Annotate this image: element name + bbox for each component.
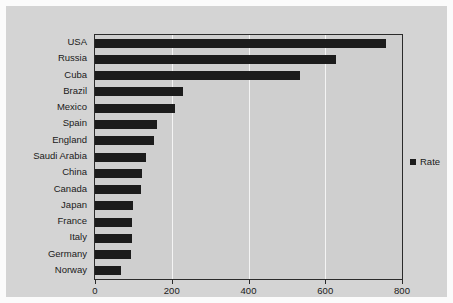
bar bbox=[95, 218, 132, 227]
y-axis-label: China bbox=[62, 167, 87, 177]
y-axis-label: Canada bbox=[54, 184, 87, 194]
x-axis-tick bbox=[95, 280, 96, 284]
legend-label-rate: Rate bbox=[420, 156, 440, 167]
y-axis-label: Germany bbox=[48, 249, 87, 259]
bar-row bbox=[95, 104, 402, 113]
y-axis-label: USA bbox=[67, 37, 87, 47]
y-axis-label: Norway bbox=[55, 265, 87, 275]
bar bbox=[95, 266, 121, 275]
bar bbox=[95, 201, 133, 210]
bar-row bbox=[95, 218, 402, 227]
y-axis-label: Brazil bbox=[63, 86, 87, 96]
bar-row bbox=[95, 55, 402, 64]
y-axis-label: England bbox=[52, 135, 87, 145]
bar bbox=[95, 185, 141, 194]
bar bbox=[95, 55, 336, 64]
x-axis-tick-label: 600 bbox=[317, 285, 333, 296]
bars-layer bbox=[95, 35, 402, 279]
bar-row bbox=[95, 250, 402, 259]
y-axis-label: Mexico bbox=[57, 102, 87, 112]
bar-row bbox=[95, 201, 402, 210]
bar-row bbox=[95, 153, 402, 162]
y-axis-label: Saudi Arabia bbox=[33, 151, 87, 161]
bar-row bbox=[95, 39, 402, 48]
y-axis-category-labels: USARussiaCubaBrazilMexicoSpainEnglandSau… bbox=[6, 34, 91, 280]
x-axis-tick-label: 200 bbox=[164, 285, 180, 296]
bar-row bbox=[95, 234, 402, 243]
bar bbox=[95, 234, 132, 243]
bar bbox=[95, 39, 386, 48]
plot-area bbox=[94, 34, 403, 280]
bar bbox=[95, 71, 300, 80]
bar bbox=[95, 120, 157, 129]
bar-row bbox=[95, 266, 402, 275]
bar-chart-figure: USARussiaCubaBrazilMexicoSpainEnglandSau… bbox=[0, 0, 453, 303]
y-axis-label: Italy bbox=[70, 232, 87, 242]
y-axis-label: Spain bbox=[63, 118, 87, 128]
bar bbox=[95, 153, 146, 162]
x-axis-tick bbox=[172, 280, 173, 284]
legend-swatch-rate bbox=[410, 159, 416, 165]
y-axis-label: Japan bbox=[61, 200, 87, 210]
y-axis-label: Russia bbox=[58, 53, 87, 63]
y-axis-label: Cuba bbox=[64, 70, 87, 80]
bar-row bbox=[95, 87, 402, 96]
bar-row bbox=[95, 71, 402, 80]
chart-canvas: USARussiaCubaBrazilMexicoSpainEnglandSau… bbox=[6, 6, 447, 297]
bar-row bbox=[95, 120, 402, 129]
bar-row bbox=[95, 169, 402, 178]
chart-legend: Rate bbox=[410, 156, 440, 167]
bar-row bbox=[95, 185, 402, 194]
x-axis-tick-labels: 0200400600800 bbox=[94, 285, 403, 299]
bar bbox=[95, 250, 131, 259]
x-axis-tick bbox=[325, 280, 326, 284]
x-axis-tick-label: 0 bbox=[92, 285, 97, 296]
bar bbox=[95, 104, 175, 113]
y-axis-label: France bbox=[57, 216, 87, 226]
x-axis-tick-label: 400 bbox=[241, 285, 257, 296]
bar bbox=[95, 136, 154, 145]
x-axis-tick-label: 800 bbox=[394, 285, 410, 296]
bar-row bbox=[95, 136, 402, 145]
x-axis-tick bbox=[249, 280, 250, 284]
bar bbox=[95, 169, 142, 178]
bar bbox=[95, 87, 183, 96]
x-axis-tick bbox=[402, 280, 403, 284]
